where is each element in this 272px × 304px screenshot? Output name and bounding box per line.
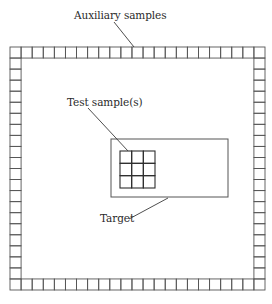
auxiliary-sample-cell: [121, 47, 132, 58]
auxiliary-sample-cell: [254, 235, 265, 246]
auxiliary-sample-cell: [254, 69, 265, 80]
auxiliary-sample-cell: [254, 80, 265, 91]
auxiliary-sample-cell: [254, 180, 265, 191]
auxiliary-sample-cell: [10, 213, 21, 224]
auxiliary-sample-cell: [32, 279, 43, 290]
auxiliary-sample-cell: [254, 146, 265, 157]
auxiliary-sample-cell: [176, 279, 187, 290]
auxiliary-sample-cell: [254, 279, 265, 290]
auxiliary-sample-cell: [110, 47, 121, 58]
auxiliary-sample-cell: [10, 91, 21, 102]
auxiliary-sample-cell: [254, 191, 265, 202]
auxiliary-sample-cell: [221, 279, 232, 290]
test-sample-cell: [143, 151, 155, 163]
auxiliary-samples-leader-line: [114, 22, 134, 47]
test-samples-label: Test sample(s): [67, 97, 142, 108]
auxiliary-sample-cell: [165, 47, 176, 58]
test-samples-grid: [120, 151, 155, 188]
auxiliary-sample-cell: [10, 202, 21, 213]
auxiliary-sample-cell: [210, 279, 221, 290]
auxiliary-sample-cell: [99, 47, 110, 58]
auxiliary-sample-cell: [10, 180, 21, 191]
auxiliary-sample-cell: [154, 47, 165, 58]
auxiliary-sample-cell: [54, 279, 65, 290]
auxiliary-sample-cell: [254, 113, 265, 124]
auxiliary-sample-cell: [65, 279, 76, 290]
auxiliary-sample-cell: [254, 124, 265, 135]
target-leader-line: [129, 198, 168, 219]
auxiliary-sample-cell: [10, 279, 21, 290]
auxiliary-sample-cell: [10, 124, 21, 135]
auxiliary-sample-cell: [254, 102, 265, 113]
auxiliary-sample-cell: [187, 47, 198, 58]
auxiliary-sample-cell: [10, 58, 21, 69]
auxiliary-sample-cell: [10, 224, 21, 235]
auxiliary-sample-cell: [10, 246, 21, 257]
auxiliary-sample-cell: [10, 135, 21, 146]
auxiliary-sample-cell: [254, 202, 265, 213]
auxiliary-sample-cell: [43, 47, 54, 58]
auxiliary-sample-cell: [254, 169, 265, 180]
auxiliary-sample-cell: [254, 91, 265, 102]
auxiliary-sample-cell: [232, 279, 243, 290]
sampling-diagram: [0, 0, 272, 304]
auxiliary-samples-ring: [10, 47, 265, 290]
auxiliary-sample-cell: [21, 279, 32, 290]
auxiliary-sample-cell: [254, 135, 265, 146]
auxiliary-sample-cell: [165, 279, 176, 290]
auxiliary-sample-cell: [10, 157, 21, 168]
auxiliary-sample-cell: [77, 47, 88, 58]
test-sample-cell: [132, 151, 144, 163]
auxiliary-sample-cell: [210, 47, 221, 58]
auxiliary-sample-cell: [54, 47, 65, 58]
auxiliary-sample-cell: [10, 191, 21, 202]
test-sample-cell: [120, 176, 132, 188]
auxiliary-sample-cell: [187, 279, 198, 290]
auxiliary-sample-cell: [132, 279, 143, 290]
auxiliary-sample-cell: [10, 47, 21, 58]
auxiliary-sample-cell: [10, 102, 21, 113]
auxiliary-sample-cell: [32, 47, 43, 58]
auxiliary-sample-cell: [254, 268, 265, 279]
auxiliary-sample-cell: [143, 47, 154, 58]
test-sample-cell: [120, 151, 132, 163]
auxiliary-sample-cell: [10, 69, 21, 80]
test-sample-cell: [120, 163, 132, 175]
auxiliary-sample-cell: [221, 47, 232, 58]
auxiliary-sample-cell: [10, 80, 21, 91]
auxiliary-sample-cell: [121, 279, 132, 290]
auxiliary-samples-label: Auxiliary samples: [74, 10, 166, 21]
auxiliary-sample-cell: [198, 279, 209, 290]
auxiliary-sample-cell: [88, 279, 99, 290]
auxiliary-sample-cell: [21, 47, 32, 58]
auxiliary-sample-cell: [77, 279, 88, 290]
auxiliary-sample-cell: [198, 47, 209, 58]
test-sample-cell: [143, 176, 155, 188]
auxiliary-sample-cell: [10, 235, 21, 246]
auxiliary-sample-cell: [254, 246, 265, 257]
test-sample-cell: [143, 163, 155, 175]
auxiliary-sample-cell: [254, 157, 265, 168]
auxiliary-sample-cell: [254, 224, 265, 235]
auxiliary-sample-cell: [10, 257, 21, 268]
auxiliary-sample-cell: [143, 279, 154, 290]
test-sample-cell: [132, 176, 144, 188]
auxiliary-sample-cell: [88, 47, 99, 58]
auxiliary-sample-cell: [254, 257, 265, 268]
auxiliary-sample-cell: [243, 47, 254, 58]
auxiliary-sample-cell: [154, 279, 165, 290]
auxiliary-sample-cell: [254, 213, 265, 224]
auxiliary-sample-cell: [232, 47, 243, 58]
auxiliary-sample-cell: [132, 47, 143, 58]
auxiliary-sample-cell: [10, 146, 21, 157]
auxiliary-sample-cell: [254, 58, 265, 69]
auxiliary-sample-cell: [243, 279, 254, 290]
auxiliary-sample-cell: [99, 279, 110, 290]
auxiliary-sample-cell: [176, 47, 187, 58]
auxiliary-sample-cell: [10, 268, 21, 279]
test-sample-cell: [132, 163, 144, 175]
auxiliary-sample-cell: [10, 113, 21, 124]
test-samples-leader-line: [88, 108, 128, 151]
auxiliary-sample-cell: [10, 169, 21, 180]
auxiliary-sample-cell: [43, 279, 54, 290]
